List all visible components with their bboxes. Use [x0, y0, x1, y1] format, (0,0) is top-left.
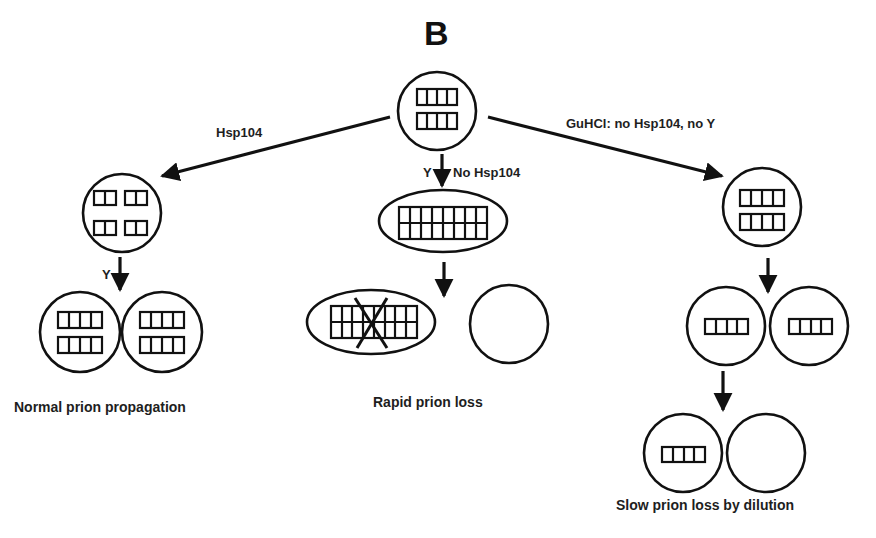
- middle-caption: Rapid prion loss: [373, 394, 483, 410]
- left-step-label: Y: [102, 267, 111, 282]
- middle-mid-cell: [379, 190, 507, 252]
- right-caption: Slow prion loss by dilution: [616, 497, 794, 513]
- prion-propagation-diagram: [0, 0, 876, 538]
- right-mid-cell: [723, 168, 801, 246]
- panel-letter: B: [424, 14, 449, 53]
- left-mid-cell: [83, 174, 161, 252]
- left-caption: Normal prion propagation: [14, 399, 186, 415]
- arrow-to-left: [162, 117, 390, 176]
- right-granddaughter-cell-1: [644, 414, 722, 492]
- middle-arrow-label: No Hsp104: [453, 165, 520, 180]
- right-daughter-cell-2: [770, 287, 848, 365]
- left-daughter-cell-2: [122, 292, 202, 372]
- middle-arrow-label-y: Y: [423, 165, 432, 180]
- left-arrow-label: Hsp104: [216, 125, 262, 140]
- middle-daughter-cell-empty: [470, 285, 548, 363]
- top-cell: [398, 72, 476, 150]
- right-arrow-label: GuHCl: no Hsp104, no Y: [566, 116, 715, 131]
- right-daughter-cell-1: [687, 287, 765, 365]
- middle-daughter-cell-crossed: [307, 290, 435, 354]
- left-daughter-cell-1: [40, 292, 120, 372]
- right-granddaughter-cell-empty: [727, 414, 805, 492]
- aggregate-2x4: [417, 89, 457, 129]
